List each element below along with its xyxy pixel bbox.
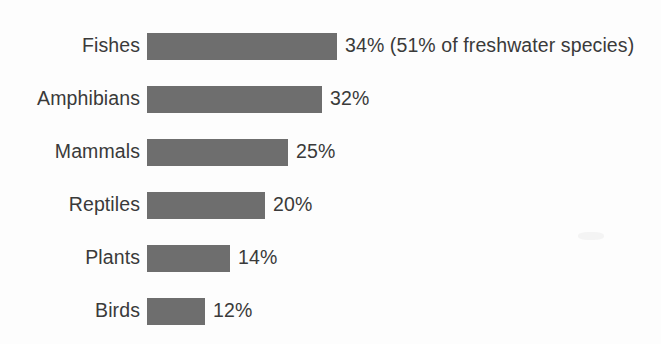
value-label-reptiles: 20%	[273, 193, 312, 216]
category-label: Birds	[0, 299, 140, 322]
value-label-plants: 14%	[238, 246, 277, 269]
annotation-freshwater-species: (51% of freshwater species)	[384, 34, 634, 56]
chart-row: Birds 12%	[0, 293, 661, 333]
bar-container	[147, 139, 288, 166]
chart-row: Amphibians 32%	[0, 81, 661, 121]
bar-reptiles	[147, 192, 265, 219]
category-label: Plants	[0, 246, 140, 269]
value-label-mammals: 25%	[296, 140, 335, 163]
bar-container	[147, 298, 205, 325]
bar-mammals	[147, 139, 288, 166]
bar-container	[147, 86, 322, 113]
value-label-birds: 12%	[213, 299, 252, 322]
bar-amphibians	[147, 86, 322, 113]
scan-artifact	[578, 232, 604, 240]
bar-plants	[147, 245, 230, 272]
category-label: Fishes	[0, 34, 140, 57]
category-label: Reptiles	[0, 193, 140, 216]
bar-container	[147, 245, 230, 272]
chart-row: Mammals 25%	[0, 134, 661, 174]
bar-container	[147, 192, 265, 219]
category-label: Mammals	[0, 140, 140, 163]
bar-fishes	[147, 33, 337, 60]
chart-row: Reptiles 20%	[0, 187, 661, 227]
category-label: Amphibians	[0, 87, 140, 110]
value-label-fishes: 34% (51% of freshwater species)	[345, 34, 634, 57]
horizontal-bar-chart: Fishes 34% (51% of freshwater species) A…	[0, 0, 661, 344]
chart-row: Plants 14%	[0, 240, 661, 280]
value-label-amphibians: 32%	[330, 87, 369, 110]
bar-birds	[147, 298, 205, 325]
bar-container	[147, 33, 337, 60]
chart-row: Fishes 34% (51% of freshwater species)	[0, 28, 661, 68]
